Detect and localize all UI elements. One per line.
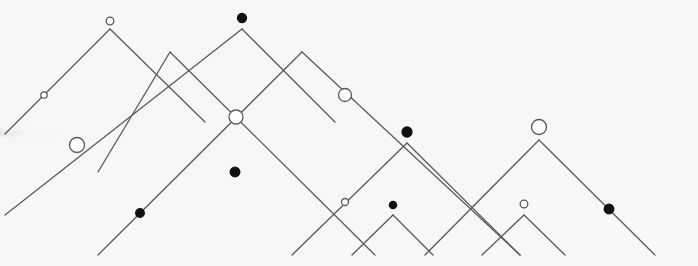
open-circle-icon	[41, 92, 47, 98]
line-segment	[302, 52, 520, 255]
filled-circle-icon	[604, 204, 614, 214]
open-circle-icon	[70, 138, 85, 153]
open-circle-icon	[342, 199, 349, 206]
line-segment	[352, 215, 393, 255]
chevron-diagram	[0, 0, 698, 266]
line-segment	[425, 140, 539, 255]
line-segment	[110, 29, 205, 122]
circle-nodes	[41, 14, 614, 218]
open-circle-icon	[520, 200, 528, 208]
open-circle-icon	[532, 120, 547, 135]
open-circle-icon	[229, 110, 243, 124]
filled-circle-icon	[402, 127, 412, 137]
line-segment	[524, 215, 565, 255]
line-segment	[407, 143, 520, 255]
line-segment	[5, 29, 242, 215]
line-segment	[539, 140, 655, 255]
line-segment	[393, 215, 433, 255]
open-circle-icon	[106, 17, 114, 25]
line-segments	[5, 29, 655, 255]
filled-circle-icon	[389, 201, 396, 208]
line-segment	[5, 29, 110, 134]
line-segment	[292, 143, 407, 255]
line-segment	[482, 215, 524, 255]
filled-circle-icon	[230, 167, 240, 177]
filled-circle-icon	[238, 14, 247, 23]
diagram-canvas	[0, 0, 698, 266]
filled-circle-icon	[136, 209, 145, 218]
line-segment	[242, 29, 335, 122]
open-circle-icon	[339, 89, 352, 102]
line-segment	[98, 52, 170, 172]
